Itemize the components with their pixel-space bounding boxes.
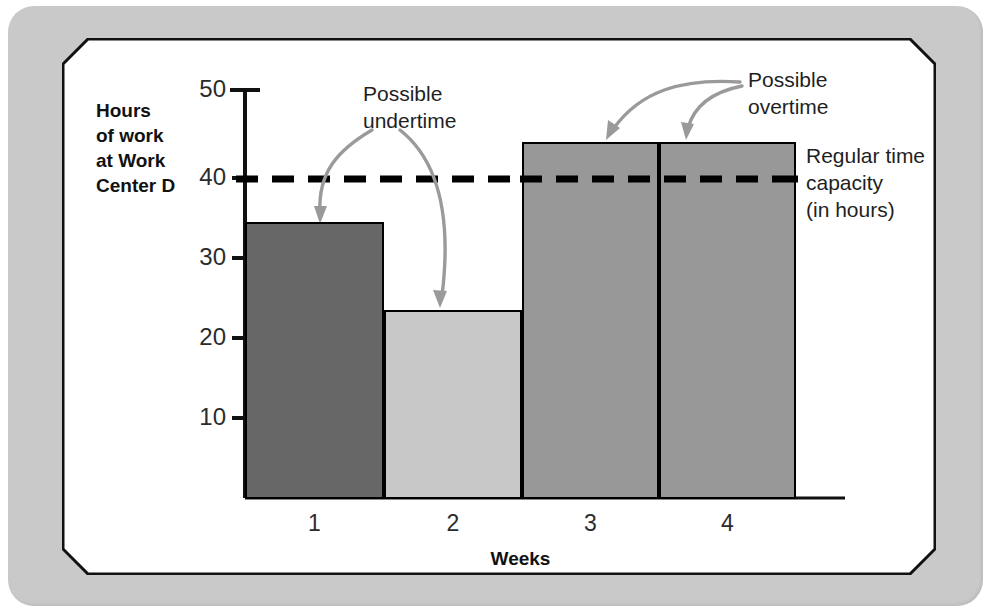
bar-week-3[interactable] xyxy=(522,142,659,499)
capacity-label: Regular time capacity (in hours) xyxy=(806,142,986,223)
x-tick-label-2: 2 xyxy=(384,510,522,537)
y-axis-title-line-1: Hours xyxy=(96,98,206,123)
annotation-overtime-line-2: overtime xyxy=(748,93,928,120)
y-axis-title: Hours of work at Work Center D xyxy=(96,98,206,198)
y-tick-label-20: 20 xyxy=(170,323,226,351)
bar-week-1[interactable] xyxy=(245,222,384,499)
y-tick-label-10: 10 xyxy=(170,403,226,431)
capacity-label-line-3: (in hours) xyxy=(806,196,986,223)
y-axis-title-line-4: Center D xyxy=(96,173,206,198)
bar-week-2[interactable] xyxy=(384,310,522,499)
figure-frame: 50 40 30 20 10 Hours of work at Work Cen… xyxy=(0,0,1001,616)
annotation-overtime-line-1: Possible xyxy=(748,66,928,93)
x-axis-title: Weeks xyxy=(245,548,796,570)
undertime-arrowhead-right xyxy=(433,290,447,308)
y-axis-title-line-3: at Work xyxy=(96,148,206,173)
undertime-arrow-left xyxy=(320,130,372,212)
y-tick-label-30: 30 xyxy=(170,243,226,271)
annotation-undertime: Possible undertime xyxy=(363,80,543,134)
bar-week-4[interactable] xyxy=(659,142,796,499)
annotation-undertime-line-2: undertime xyxy=(363,107,543,134)
annotation-undertime-line-1: Possible xyxy=(363,80,543,107)
x-tick-label-4: 4 xyxy=(659,510,796,537)
x-tick-label-1: 1 xyxy=(245,510,384,537)
overtime-arrow-left xyxy=(614,81,740,128)
overtime-arrow-group xyxy=(614,81,742,128)
undertime-arrow-right xyxy=(400,130,445,296)
overtime-arrowhead-right xyxy=(681,122,694,140)
y-axis-title-line-2: of work xyxy=(96,123,206,148)
capacity-label-line-2: capacity xyxy=(806,169,986,196)
annotation-overtime: Possible overtime xyxy=(748,66,928,120)
capacity-label-line-1: Regular time xyxy=(806,142,986,169)
overtime-arrow-right xyxy=(688,86,742,128)
x-tick-label-3: 3 xyxy=(522,510,659,537)
